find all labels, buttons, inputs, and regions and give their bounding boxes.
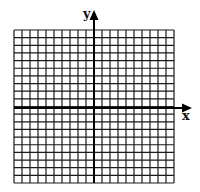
coordinate-plane: y x xyxy=(0,0,200,192)
grid-canvas xyxy=(0,0,200,192)
x-axis-label: x xyxy=(182,109,190,122)
y-axis-label: y xyxy=(83,7,91,20)
